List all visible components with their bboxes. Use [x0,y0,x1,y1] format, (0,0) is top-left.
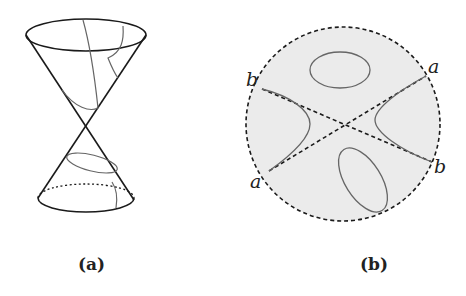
disk-boundary [246,27,440,221]
double-cone-diagram [26,19,146,212]
figure [0,0,466,296]
cone-side-left [26,35,134,200]
disk-diagram [246,27,440,221]
caption-b: (b) [360,254,388,274]
label-b-right: b [434,157,446,176]
conic-curves [62,20,123,208]
cone-top-rim [26,19,146,51]
cone-bottom-rim-front [38,198,134,212]
parabola-curve [62,20,98,109]
hyperbola-curve-upper [108,26,123,78]
label-a-left: a [250,172,261,191]
caption-a: (a) [78,254,105,274]
label-b-left: b [246,70,258,89]
cone-bottom-rim-back [38,184,134,198]
label-a-right: a [428,57,439,76]
hyperbola-curve-lower [112,182,117,208]
ellipse-curve [65,149,119,177]
